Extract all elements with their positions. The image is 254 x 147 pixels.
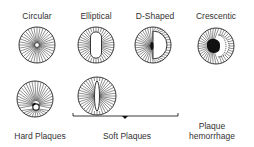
- crescentic-vessel-icon: [198, 28, 234, 64]
- label-hard-plaques: Hard Plaques: [14, 132, 66, 141]
- label-crescentic: Crescentic: [196, 12, 236, 21]
- calcification-mark: [151, 42, 154, 50]
- plaque-hemorrhage-blob: [207, 39, 220, 53]
- label-soft-plaques: Soft Plaques: [103, 132, 151, 141]
- slit-lumen: [95, 81, 100, 111]
- label-plaque-hemorrhage-line1: Plaque: [199, 122, 225, 131]
- soft-plaque-vessel-icon: [78, 77, 116, 115]
- label-elliptical: Elliptical: [80, 12, 111, 21]
- label-d-shaped: D-Shaped: [136, 12, 174, 21]
- label-circular: Circular: [22, 12, 51, 21]
- circular-vessel-icon: [19, 27, 55, 63]
- label-plaque-hemorrhage-line2: hemorrhage: [189, 132, 235, 141]
- hard-plaque-vessel-icon: [17, 81, 53, 117]
- elliptical-vessel-icon: [78, 27, 114, 63]
- bracket-center-mark: [122, 116, 128, 119]
- d-shaped-vessel-icon: [135, 27, 171, 63]
- vessel-cross-sections: [17, 27, 234, 117]
- soft-plaques-bracket: [73, 113, 178, 119]
